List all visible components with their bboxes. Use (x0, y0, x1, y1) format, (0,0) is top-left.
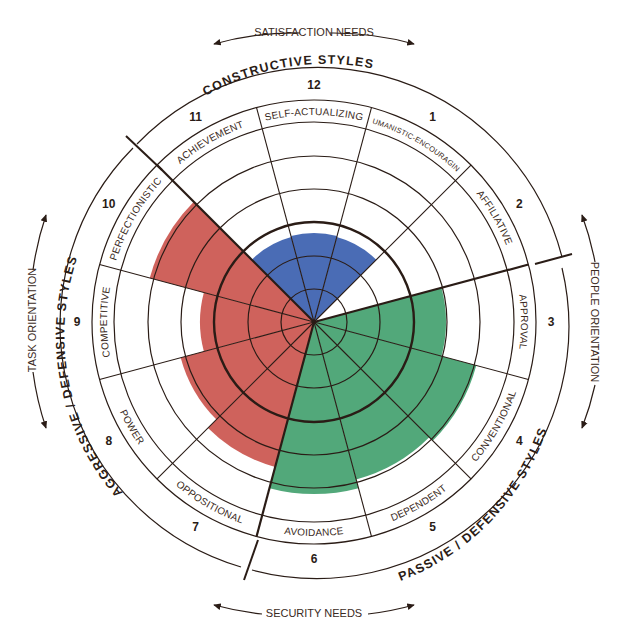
style-number-5: 5 (429, 520, 436, 534)
style-number-6: 6 (311, 552, 318, 566)
axis-label-people-orientation: PEOPLE ORIENTATION (589, 262, 601, 383)
style-number-9: 9 (74, 315, 81, 329)
style-number-1: 1 (429, 110, 436, 124)
style-label-approval: APPROVAL (517, 294, 530, 351)
style-label-perfectionistic: PERFECTIONISTIC (108, 175, 164, 262)
style-label-humanistic-encouraging: HUMANISTIC-ENCOURAGING (0, 0, 462, 174)
style-fills (150, 202, 476, 494)
cluster-label-aggressive-defensive: AGGRESSIVE / DEFENSIVE STYLES (53, 253, 125, 499)
axis-label-satisfaction-needs: SATISFACTION NEEDS (254, 26, 374, 38)
style-number-4: 4 (516, 434, 523, 448)
style-label-dependent: DEPENDENT (389, 482, 449, 523)
circumplex-diagram: SELF-ACTUALIZINGHUMANISTIC-ENCOURAGINGAF… (0, 0, 626, 633)
style-number-7: 7 (192, 520, 199, 534)
style-label-self-actualizing: SELF-ACTUALIZING (264, 106, 365, 123)
style-number-8: 8 (105, 434, 112, 448)
style-label-avoidance: AVOIDANCE (284, 525, 344, 538)
style-number-12: 12 (307, 78, 321, 92)
axis-label-security-needs: SECURITY NEEDS (266, 607, 362, 619)
style-label-competitive: COMPETITIVE (98, 286, 112, 359)
style-number-11: 11 (189, 110, 202, 124)
style-number-10: 10 (102, 197, 116, 211)
style-number-2: 2 (516, 197, 523, 211)
axis-label-task-orientation: TASK ORIENTATION (26, 268, 38, 373)
style-number-3: 3 (548, 315, 555, 329)
style-label-power: POWER (118, 408, 147, 447)
cluster-label-constructive: CONSTRUCTIVE STYLES (200, 53, 375, 99)
